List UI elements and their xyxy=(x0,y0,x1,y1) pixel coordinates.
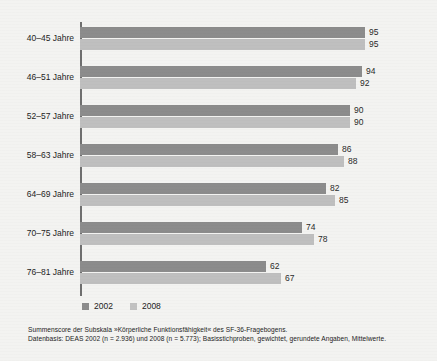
plot-area: 9595949290908688828574786267 xyxy=(80,22,380,295)
legend-swatch-icon-2002 xyxy=(82,303,89,310)
legend-item-2002[interactable]: 2002 xyxy=(82,301,113,311)
bar-2008-5 xyxy=(80,195,335,206)
legend-label-2008: 2008 xyxy=(142,301,161,311)
category-label-2: 46–51 Jahre xyxy=(27,72,74,82)
bar-group: 9090 xyxy=(80,105,380,128)
bar-group: 6267 xyxy=(80,261,380,284)
bar-2008-4 xyxy=(80,156,344,167)
bar-2002-4 xyxy=(80,144,338,155)
bar-2002-2 xyxy=(80,66,362,77)
bar-2002-1 xyxy=(80,27,365,38)
bar-group: 9595 xyxy=(80,27,380,50)
bar-2008-7 xyxy=(80,273,281,284)
bar-2002-3 xyxy=(80,105,350,116)
value-label-2002-3: 90 xyxy=(354,105,363,116)
bar-2008-6 xyxy=(80,234,314,245)
bar-group: 8285 xyxy=(80,183,380,206)
value-label-2002-2: 94 xyxy=(366,66,375,77)
value-label-2008-2: 92 xyxy=(360,78,369,89)
bar-2008-1 xyxy=(80,39,365,50)
value-label-2002-6: 74 xyxy=(306,222,315,233)
value-label-2002-4: 86 xyxy=(342,144,351,155)
bar-group: 9492 xyxy=(80,66,380,89)
value-label-2002-7: 62 xyxy=(270,261,279,272)
category-label-1: 40–45 Jahre xyxy=(27,33,74,43)
value-label-2008-1: 95 xyxy=(369,39,378,50)
bar-2002-6 xyxy=(80,222,302,233)
footnote-block: Summenscore der Subskala »Körperliche Fu… xyxy=(28,325,433,343)
value-label-2008-4: 88 xyxy=(348,156,357,167)
value-label-2008-6: 78 xyxy=(318,234,327,245)
bar-group: 8688 xyxy=(80,144,380,167)
value-label-2002-5: 82 xyxy=(330,183,339,194)
bar-2002-5 xyxy=(80,183,326,194)
chart-page: 40–45 Jahre46–51 Jahre52–57 Jahre58–63 J… xyxy=(0,0,437,361)
chart-legend: 20022008 xyxy=(82,301,161,311)
category-label-5: 64–69 Jahre xyxy=(27,189,74,199)
legend-item-2008[interactable]: 2008 xyxy=(130,301,161,311)
value-label-2002-1: 95 xyxy=(369,27,378,38)
value-label-2008-7: 67 xyxy=(285,273,294,284)
category-label-6: 70–75 Jahre xyxy=(27,228,74,238)
bar-2008-3 xyxy=(80,117,350,128)
bar-2008-2 xyxy=(80,78,356,89)
legend-label-2002: 2002 xyxy=(94,301,113,311)
category-label-3: 52–57 Jahre xyxy=(27,111,74,121)
bar-group: 7478 xyxy=(80,222,380,245)
category-axis-labels: 40–45 Jahre46–51 Jahre52–57 Jahre58–63 J… xyxy=(0,22,74,296)
bar-2002-7 xyxy=(80,261,266,272)
category-label-7: 76–81 Jahre xyxy=(27,267,74,277)
category-label-4: 58–63 Jahre xyxy=(27,150,74,160)
footnote-line-1: Summenscore der Subskala »Körperliche Fu… xyxy=(28,325,433,334)
value-label-2008-3: 90 xyxy=(354,117,363,128)
value-label-2008-5: 85 xyxy=(339,195,348,206)
footnote-line-2: Datenbasis: DEAS 2002 (n = 2.936) und 20… xyxy=(28,334,433,343)
legend-swatch-icon-2008 xyxy=(130,303,137,310)
